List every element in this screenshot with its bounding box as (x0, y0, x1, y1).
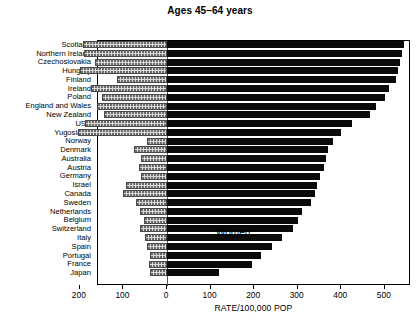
axis-tick (297, 285, 298, 289)
bar-women (85, 120, 167, 127)
category-label: Hungary (0, 67, 91, 75)
bar-women (126, 182, 167, 189)
axis-tick (122, 285, 123, 289)
bar-men (167, 269, 219, 276)
category-axis-labels: ScotlandNorthern IrelandCzechoslovakiaHu… (0, 40, 94, 285)
axis-tick-label: 400 (320, 290, 360, 300)
category-label: Finland (0, 76, 91, 84)
bar-men (167, 252, 261, 259)
bar-men (167, 261, 252, 268)
category-label: Switzerland (0, 225, 91, 233)
bar-men (167, 155, 326, 162)
bar-men (167, 138, 333, 145)
bar-men (167, 94, 385, 101)
bar-men (167, 164, 324, 171)
bar-men (167, 50, 402, 57)
axis-tick-label: 500 (364, 290, 404, 300)
category-label: Spain (0, 243, 91, 251)
axis-tick (210, 285, 211, 289)
bar-women (104, 111, 167, 118)
bar-men (167, 59, 400, 66)
bar-women (123, 190, 167, 197)
bar-men (167, 120, 352, 127)
bar-men (167, 199, 311, 206)
axis-tick (253, 285, 254, 289)
bar-women (147, 243, 167, 250)
category-label: Scotland (0, 41, 91, 49)
bar-women (147, 138, 167, 145)
category-label: Denmark (0, 146, 91, 154)
bar-women (145, 234, 167, 241)
bar-men (167, 129, 341, 136)
category-label: Australia (0, 155, 91, 163)
category-label: New Zealand (0, 111, 91, 119)
bar-men (167, 182, 317, 189)
plot-area: Women Men (97, 40, 410, 285)
bar-women (144, 217, 167, 224)
bar-women (91, 85, 167, 92)
bar-men (167, 208, 302, 215)
bar-women (117, 76, 167, 83)
axis-tick (384, 285, 385, 289)
chart-root: Ages 45–64 years ScotlandNorthern Irelan… (0, 0, 420, 333)
bar-women (136, 199, 167, 206)
bar-women (140, 225, 167, 232)
bar-women (134, 146, 167, 153)
bar-men (167, 173, 320, 180)
axis-tick (79, 285, 80, 289)
bar-men (167, 67, 398, 74)
bar-men (167, 111, 370, 118)
category-label: Sweden (0, 199, 91, 207)
bar-men (167, 190, 315, 197)
bar-men (167, 76, 396, 83)
bar-men (167, 243, 272, 250)
bar-women (140, 208, 167, 215)
bar-women (83, 41, 167, 48)
chart-title: Ages 45–64 years (0, 5, 420, 16)
bar-men (167, 85, 389, 92)
axis-tick-label: 300 (277, 290, 317, 300)
bar-rows (98, 41, 411, 286)
x-axis-tick-labels: 2001000100200300400500 (97, 290, 410, 302)
bar-men (167, 103, 376, 110)
bar-women (84, 50, 167, 57)
bar-women (80, 67, 167, 74)
x-axis-label: RATE/100,000 POP (97, 303, 410, 313)
bar-women (150, 252, 167, 259)
bar-women (78, 129, 167, 136)
category-label: Italy (0, 234, 91, 242)
bar-women (139, 164, 167, 171)
bar-men (167, 146, 328, 153)
category-label: Canada (0, 190, 91, 198)
axis-tick-label: 0 (146, 290, 186, 300)
bar-women (141, 173, 167, 180)
bar-women (97, 103, 167, 110)
axis-tick-label: 200 (59, 290, 99, 300)
bar-women (95, 59, 167, 66)
bar-women (149, 261, 167, 268)
bar-women (102, 94, 167, 101)
category-label: Japan (0, 269, 91, 277)
bar-men (167, 41, 404, 48)
axis-tick (166, 285, 167, 289)
bar-women (141, 155, 167, 162)
bar-row (98, 268, 411, 278)
annotation-women: Women (216, 227, 250, 238)
axis-tick (340, 285, 341, 289)
axis-tick-label: 100 (190, 290, 230, 300)
axis-tick-label: 200 (233, 290, 273, 300)
category-label: USA (0, 120, 91, 128)
bar-men (167, 217, 298, 224)
bar-women (150, 269, 167, 276)
axis-tick-label: 100 (102, 290, 142, 300)
